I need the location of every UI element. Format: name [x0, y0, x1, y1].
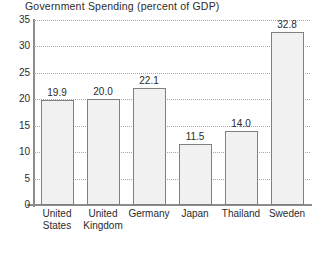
- bar-value-label: 22.1: [124, 75, 174, 86]
- bar: [41, 100, 74, 205]
- y-axis-tick-label: 5: [4, 174, 30, 184]
- bar: [225, 131, 258, 205]
- bar: [87, 99, 120, 205]
- bar: [271, 32, 304, 205]
- category-label: Sweden: [257, 208, 317, 220]
- gridline: [34, 126, 310, 127]
- y-axis-tick-label: 30: [4, 41, 30, 51]
- bar-value-label: 11.5: [170, 131, 220, 142]
- bar-value-label: 19.9: [32, 87, 82, 98]
- y-axis-tick-label: 20: [4, 94, 30, 104]
- y-axis-tick-label: 35: [4, 15, 30, 25]
- category-label-line: Kingdom: [73, 220, 133, 232]
- y-axis-tick-label: 15: [4, 121, 30, 131]
- plot-area: [34, 20, 310, 205]
- y-axis-tick-labels: 05101520253035: [0, 0, 30, 253]
- gridline: [34, 99, 310, 100]
- category-label-line: Sweden: [257, 208, 317, 220]
- bar-value-label: 32.8: [262, 19, 312, 30]
- bar: [179, 144, 212, 205]
- y-axis-tick-label: 10: [4, 147, 30, 157]
- gridline: [34, 46, 310, 47]
- gridline: [34, 152, 310, 153]
- y-axis-tick-label: 25: [4, 68, 30, 78]
- bar: [133, 88, 166, 205]
- gridline: [34, 73, 310, 74]
- chart-title: Government Spending (percent of GDP): [25, 0, 220, 13]
- bar-chart: Government Spending (percent of GDP) 051…: [0, 0, 326, 253]
- bar-value-label: 20.0: [78, 86, 128, 97]
- bar-value-label: 14.0: [216, 118, 266, 129]
- gridline: [34, 179, 310, 180]
